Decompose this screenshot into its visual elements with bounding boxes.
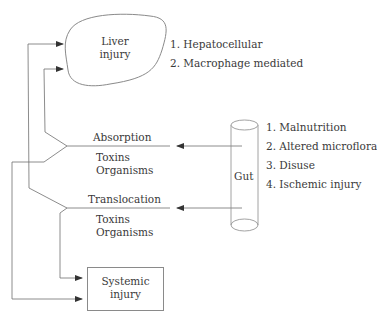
gut-cause-item: 3. Disuse xyxy=(266,156,377,175)
absorption-organisms: Organisms xyxy=(96,164,153,177)
liver-injury-label: Liver injury xyxy=(92,35,138,61)
liver-mechanism-item: 1. Hepatocellular xyxy=(170,35,303,54)
gut-cause-item: 2. Altered microflora xyxy=(266,137,377,156)
absorption-label: Absorption xyxy=(93,131,151,144)
translocation-label: Translocation xyxy=(88,193,161,206)
liver-label-line2: injury xyxy=(92,48,138,61)
translocation-organisms: Organisms xyxy=(96,226,153,239)
gut-label: Gut xyxy=(234,170,253,183)
absorption-contents: Toxins Organisms xyxy=(96,151,153,177)
gut-causes-list: 1. Malnutrition 2. Altered microflora 3.… xyxy=(266,118,377,194)
systemic-label-line1: Systemic xyxy=(88,275,163,288)
gut-cause-item: 4. Ischemic injury xyxy=(266,175,377,194)
systemic-injury-box: Systemic injury xyxy=(87,267,164,311)
liver-mechanism-item: 2. Macrophage mediated xyxy=(170,54,303,73)
absorption-toxins: Toxins xyxy=(96,151,153,164)
liver-mechanisms-list: 1. Hepatocellular 2. Macrophage mediated xyxy=(170,35,303,73)
systemic-label-line2: injury xyxy=(88,288,163,301)
liver-label-line1: Liver xyxy=(92,35,138,48)
gut-cause-item: 1. Malnutrition xyxy=(266,118,377,137)
translocation-contents: Toxins Organisms xyxy=(96,213,153,239)
translocation-toxins: Toxins xyxy=(96,213,153,226)
